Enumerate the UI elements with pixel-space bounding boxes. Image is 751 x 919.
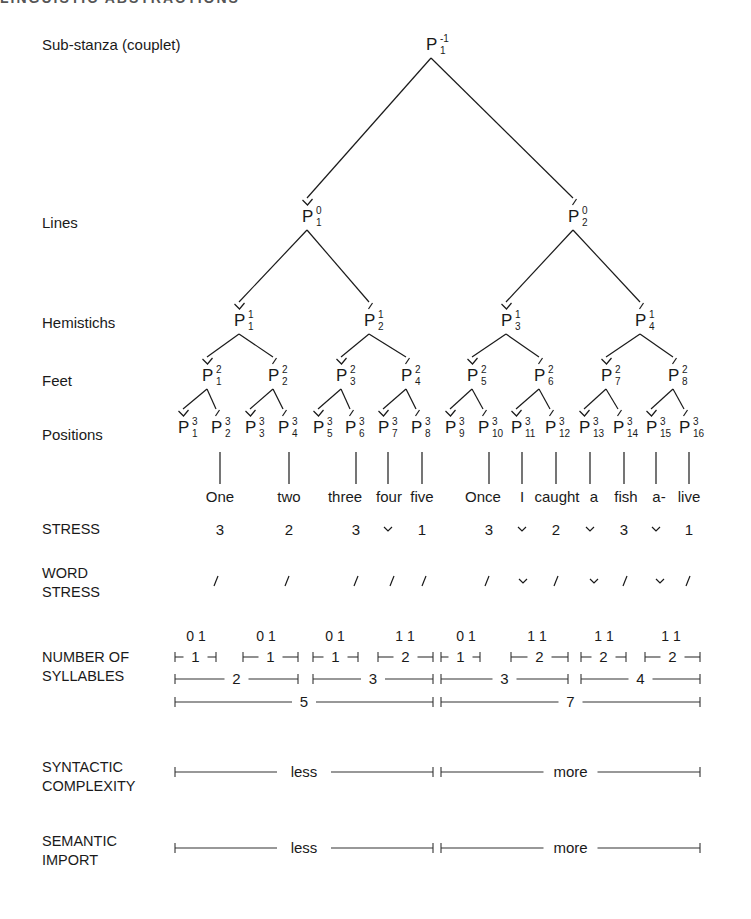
stress-value: 3 <box>216 521 224 538</box>
tree-edge <box>239 334 273 357</box>
position-node-9-superscript: 3 <box>459 416 465 427</box>
tree-edge <box>584 389 606 409</box>
position-node-13-glyph: P <box>579 418 590 437</box>
position-node-9-subscript: 9 <box>459 428 465 439</box>
hemistich-node-1-subscript: 1 <box>248 321 254 332</box>
syllable-pair: 1 1 <box>661 628 681 644</box>
foot-syllable-span-label: 1 <box>331 648 339 665</box>
tree-edge <box>307 230 369 302</box>
foot-node-5-superscript: 2 <box>481 364 487 375</box>
word-two: two <box>277 488 300 505</box>
breve-accent-icon <box>580 410 590 416</box>
foot-node-2-glyph: P <box>268 366 279 385</box>
position-node-2-glyph: P <box>211 418 222 437</box>
foot-node-7-superscript: 2 <box>615 364 621 375</box>
stress-value: 1 <box>685 521 693 538</box>
stress-value: 3 <box>352 521 360 538</box>
tree-edge <box>250 389 273 409</box>
acute-accent-icon <box>406 358 410 364</box>
acute-accent-icon <box>273 358 277 364</box>
foot-node-8-superscript: 2 <box>682 364 688 375</box>
position-node-6-superscript: 3 <box>359 416 365 427</box>
stress-slash-icon <box>422 576 426 586</box>
foot-syllable-span-label: 2 <box>599 648 607 665</box>
stress-slash-icon <box>214 576 218 586</box>
position-node-4-glyph: P <box>278 418 289 437</box>
semantic-import-span-label: less <box>291 839 318 856</box>
position-node-1-superscript: 3 <box>192 416 198 427</box>
tree-edge <box>506 230 573 302</box>
word-caught: caught <box>534 488 580 505</box>
root-node-superscript: -1 <box>440 33 449 44</box>
tree-edge <box>307 58 431 198</box>
tree-svg: P-11P01P02P11P12P13P14P21P22P23P24P25P26… <box>0 0 751 919</box>
foot-node-1-superscript: 2 <box>216 364 222 375</box>
breve-accent-icon <box>379 410 389 416</box>
foot-node-8-glyph: P <box>668 366 679 385</box>
position-node-11-glyph: P <box>511 418 522 437</box>
stress-slash-icon <box>554 576 558 586</box>
word-four: four <box>376 488 402 505</box>
position-node-11-subscript: 11 <box>525 428 536 439</box>
position-node-8-subscript: 8 <box>425 428 431 439</box>
stress-slash-icon <box>485 576 489 586</box>
foot-node-4-glyph: P <box>401 366 412 385</box>
acute-accent-icon <box>350 410 354 416</box>
unstressed-mark-icon <box>518 527 526 531</box>
word-a: a <box>590 488 599 505</box>
position-node-10-glyph: P <box>478 418 489 437</box>
acute-accent-icon <box>283 410 287 416</box>
foot-node-2-superscript: 2 <box>282 364 288 375</box>
hemistich-node-2-superscript: 1 <box>378 309 384 320</box>
position-node-5-superscript: 3 <box>327 416 333 427</box>
word-five: five <box>410 488 433 505</box>
acute-accent-icon <box>416 410 420 416</box>
tree-edge <box>673 389 684 409</box>
hemistich-syllable-span-label: 4 <box>636 670 644 687</box>
foot-node-5-subscript: 5 <box>481 376 487 387</box>
foot-node-6-glyph: P <box>534 366 545 385</box>
syntactic-complexity-span-label: more <box>553 763 587 780</box>
stress-slash-icon <box>623 576 627 586</box>
foot-syllable-span-label: 2 <box>401 648 409 665</box>
hemistich-node-4-superscript: 1 <box>649 309 655 320</box>
position-node-16-superscript: 3 <box>693 416 699 427</box>
position-node-3-superscript: 3 <box>259 416 265 427</box>
foot-syllable-span-label: 1 <box>266 648 274 665</box>
tree-edge <box>207 334 239 357</box>
hemistich-syllable-span-label: 3 <box>500 670 508 687</box>
hemistich-syllable-span-label: 2 <box>232 670 240 687</box>
acute-accent-icon <box>483 410 487 416</box>
word-i: I <box>520 488 524 505</box>
foot-syllable-span-label: 2 <box>668 648 676 665</box>
foot-node-3-subscript: 3 <box>350 376 356 387</box>
breve-accent-icon <box>647 410 657 416</box>
tree-edge <box>318 389 341 409</box>
position-node-4-superscript: 3 <box>292 416 298 427</box>
word-live: live <box>678 488 701 505</box>
tree-edge <box>450 389 472 409</box>
foot-node-6-subscript: 6 <box>548 376 554 387</box>
position-node-3-glyph: P <box>245 418 256 437</box>
tree-edge <box>341 334 369 357</box>
word-three: three <box>328 488 362 505</box>
tree-edge <box>239 230 307 302</box>
stress-slash-icon <box>285 576 289 586</box>
position-node-2-superscript: 3 <box>225 416 231 427</box>
hemistich-node-4-glyph: P <box>635 311 646 330</box>
stress-slash-icon <box>390 576 394 586</box>
position-node-5-subscript: 5 <box>327 428 333 439</box>
position-node-12-glyph: P <box>545 418 556 437</box>
breve-accent-icon <box>502 303 512 309</box>
tree-edge <box>573 230 640 302</box>
position-node-14-subscript: 14 <box>627 428 639 439</box>
breve-accent-icon <box>179 410 189 416</box>
breve-accent-icon <box>303 199 313 205</box>
word-a: a- <box>652 488 665 505</box>
tree-edge <box>539 389 550 409</box>
tree-edge <box>472 334 506 357</box>
hemistich-node-4-subscript: 4 <box>649 321 655 332</box>
position-node-7-subscript: 7 <box>392 428 398 439</box>
hemistich-node-1-superscript: 1 <box>248 309 254 320</box>
metrical-tree-diagram: LINGUISTIC ABSTRACTIONS Sub-stanza (coup… <box>0 0 751 919</box>
